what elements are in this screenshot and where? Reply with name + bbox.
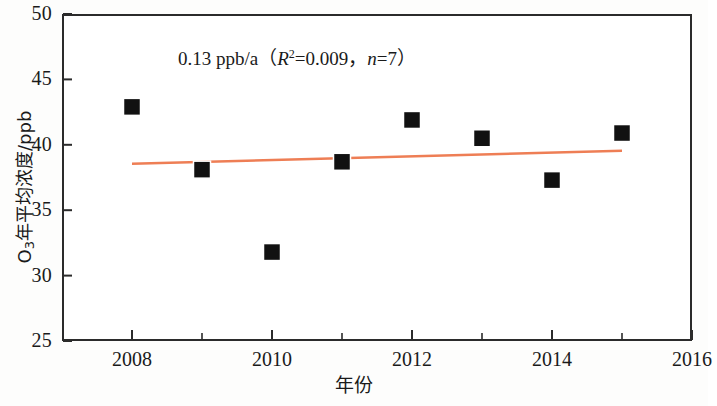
annotation-n-value: =7 (377, 48, 397, 69)
trend-annotation: 0.13 ppb/a（R2=0.009，n=7） (178, 47, 416, 70)
annotation-r-value: =0.009 (295, 48, 348, 69)
y-axis-title: O3年平均浓度/ppb (15, 57, 37, 317)
x-axis-title: 年份 (0, 374, 708, 397)
y-tick-label: 25 (8, 330, 52, 350)
y-axis-title-suffix: 年平均浓度/ppb (14, 111, 35, 241)
annotation-close-paren: ） (397, 47, 416, 69)
x-tick-label: 2012 (367, 348, 457, 370)
x-tick-label: 2008 (87, 348, 177, 370)
y-tick-label: 50 (8, 3, 52, 23)
y-axis-title-subscript: 3 (22, 241, 37, 249)
annotation-open-paren: （ (258, 47, 277, 69)
y-axis-title-prefix: O (14, 249, 35, 263)
annotation-r-symbol: R (277, 48, 289, 69)
x-axis-title-text: 年份 (335, 374, 373, 396)
x-tick-label: 2016 (647, 348, 717, 370)
annotation-slope: 0.13 ppb/a (178, 48, 258, 69)
annotation-n-symbol: n (367, 48, 377, 69)
annotation-comma: ， (348, 47, 367, 69)
x-tick-label: 2014 (507, 348, 597, 370)
x-tick-label: 2010 (227, 348, 317, 370)
